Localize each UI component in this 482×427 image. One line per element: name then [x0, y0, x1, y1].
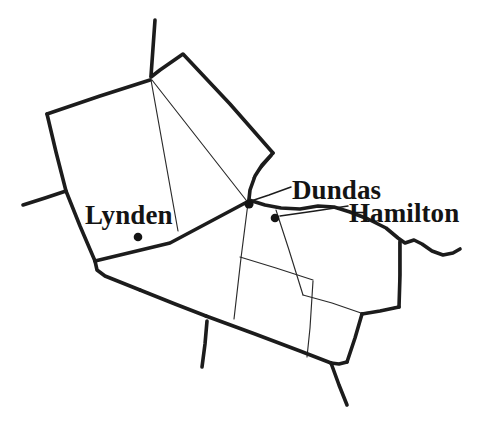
road-spur-north	[151, 20, 155, 76]
boundary-southeast-block-vert	[347, 314, 362, 362]
boundary-east-block-bottom	[362, 307, 399, 314]
boundary-east-block-right	[399, 241, 400, 307]
road-spur-south	[202, 321, 207, 367]
road-spur-west	[23, 191, 66, 205]
parcel-line-right-vert	[307, 281, 313, 357]
place-label-lynden: Lynden	[85, 202, 173, 229]
boundary-northeast-return	[249, 153, 273, 199]
boundary-southwest-corner	[95, 261, 140, 290]
parcel-line-nw-2	[152, 80, 246, 200]
leader-line-dundas	[251, 187, 291, 201]
parcel-line-lower-horiz	[240, 257, 313, 280]
map-figure: Lynden Dundas Hamilton	[0, 0, 482, 427]
place-label-hamilton: Hamilton	[349, 200, 459, 227]
city-dot-lynden	[134, 233, 143, 242]
boundary-southeast-block-bottom	[331, 362, 347, 364]
boundary-northwest-top	[47, 80, 150, 114]
city-dot-dundas	[244, 199, 253, 208]
boundary-south-diagonal	[140, 290, 206, 316]
city-dot-hamilton	[271, 214, 280, 223]
parcel-line-mid-vert	[276, 210, 303, 295]
boundary-west	[47, 114, 95, 261]
boundary-north-ridge	[151, 54, 273, 153]
road-spur-southeast	[331, 363, 347, 405]
parcel-line-center-vert	[234, 203, 248, 319]
boundary-south-diagonal-east	[206, 316, 331, 363]
